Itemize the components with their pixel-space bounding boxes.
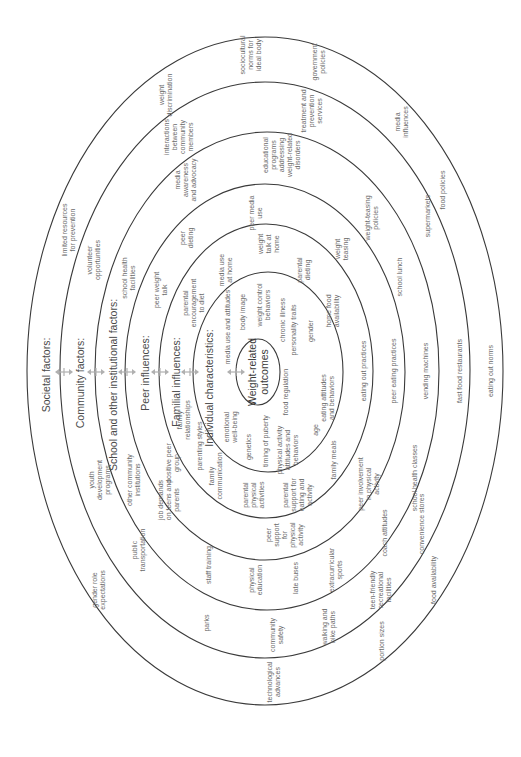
factor-label: limited resourcesfor prevention bbox=[61, 203, 77, 256]
factor-label-line: eating and bbox=[298, 479, 306, 512]
factor-label: eating attitudesand behaviors bbox=[320, 374, 335, 422]
factor-label-line: food availability bbox=[430, 556, 438, 604]
factor-label: peersupportforphysicalactivity bbox=[265, 522, 305, 548]
factor-label-line: technological bbox=[266, 661, 274, 702]
factor-label-line: public bbox=[131, 540, 139, 559]
factor-label-line: parental bbox=[282, 482, 290, 508]
factor-label-line: extracurricular bbox=[328, 547, 335, 592]
factor-label-line: activities bbox=[258, 481, 265, 508]
factor-label: genetics bbox=[245, 433, 253, 460]
factor-label-line: fast food restaurants bbox=[456, 339, 463, 403]
factor-label-line: age bbox=[312, 424, 320, 436]
factor-label: extracurricularsports bbox=[328, 547, 344, 592]
factor-label-line: education bbox=[256, 565, 263, 595]
factor-label: home foodavailability bbox=[325, 294, 341, 327]
factor-label: physicaleducation bbox=[248, 565, 263, 595]
factor-label-line: home bbox=[273, 235, 280, 253]
factor-label: food regulation bbox=[282, 369, 290, 415]
factor-label-line: genetics bbox=[245, 433, 253, 460]
factor-label-line: media use and attitudes bbox=[224, 289, 231, 364]
factor-label-line: weight-teasing bbox=[364, 195, 372, 241]
factor-label-line: chronic illness bbox=[279, 298, 286, 342]
factor-label: parentalphysicalactivities bbox=[242, 481, 265, 508]
factor-label-line: media bbox=[394, 112, 401, 131]
factor-label-line: home food bbox=[325, 294, 332, 327]
factor-label-line: educational bbox=[262, 137, 269, 173]
factor-label-line: addressing bbox=[278, 138, 286, 172]
factor-label-line: and behaviors bbox=[328, 376, 335, 420]
factor-label-line: services bbox=[316, 98, 323, 124]
factor-label-line: policies bbox=[372, 206, 380, 230]
factor-labels: socioculturalnorms forideal bodygovernme… bbox=[61, 35, 495, 702]
factor-label-line: support for bbox=[290, 478, 298, 512]
factor-label: emotionalwell-being bbox=[223, 411, 239, 444]
factor-label-line: personality traits bbox=[290, 304, 298, 355]
factor-label-line: support bbox=[273, 523, 281, 546]
factor-label-line: policies bbox=[319, 50, 327, 74]
level-title: Peer influences: bbox=[139, 335, 151, 410]
factor-label: family meals bbox=[330, 440, 338, 479]
factor-label-line: at home bbox=[226, 257, 233, 282]
factor-label-line: teasing bbox=[342, 238, 350, 261]
factor-label-line: other community bbox=[126, 454, 134, 506]
factor-label: educationalprogramsaddressingweight-rela… bbox=[262, 133, 301, 178]
factor-label-line: transportation bbox=[139, 528, 147, 571]
factor-label: familycommunication bbox=[208, 452, 223, 499]
factor-label-line: peer involvement bbox=[357, 457, 365, 510]
factor-label-line: talk at bbox=[265, 235, 272, 254]
factor-label-line: institutions bbox=[134, 463, 141, 497]
factor-label-line: physical bbox=[289, 522, 297, 548]
factor-label-line: in physical bbox=[365, 467, 373, 500]
factor-label-line: vending machines bbox=[422, 342, 430, 399]
level-title: Societal factors: bbox=[40, 338, 52, 413]
factor-label-line: attitudes and bbox=[284, 430, 291, 470]
factor-label-line: eating attitudes bbox=[320, 374, 328, 422]
factor-label-line: expectations bbox=[99, 570, 107, 610]
level-title: Individual characteristics: bbox=[203, 329, 215, 446]
factor-label-line: opportunities bbox=[94, 239, 102, 280]
factor-label: body image bbox=[239, 294, 247, 330]
factor-label-line: for bbox=[281, 530, 288, 539]
factor-label-line: parental bbox=[182, 290, 190, 316]
factor-label-line: parental bbox=[296, 257, 304, 283]
factor-label: weight controlbehaviors bbox=[256, 283, 271, 328]
ecological-model-diagram: Societal factors:Community factors:Schoo… bbox=[0, 0, 521, 757]
factor-label: food availability bbox=[430, 556, 438, 604]
factor-label: peer weighttalk bbox=[153, 272, 168, 308]
factor-label-line: body image bbox=[239, 294, 247, 330]
center-outcomes: Weight-relatedoutcomes bbox=[246, 338, 270, 406]
factor-label-line: media use bbox=[218, 254, 225, 286]
double-arrow-icon bbox=[151, 368, 169, 376]
factor-label-line: discrimination bbox=[166, 73, 173, 116]
level-title-line: Individual characteristics: bbox=[203, 329, 215, 446]
factor-label-line: supermarkets bbox=[424, 194, 432, 237]
factor-label-line: disorders bbox=[294, 140, 301, 169]
factor-label: food policies bbox=[439, 170, 447, 209]
factor-label: timing of puberty bbox=[262, 415, 270, 467]
factor-label-line: physical bbox=[250, 482, 258, 508]
factor-label-line: family bbox=[176, 410, 184, 429]
factor-label-line: and advocacy bbox=[190, 158, 198, 202]
factor-label: late buses bbox=[292, 562, 299, 594]
factor-label-line: parents bbox=[173, 488, 181, 512]
factor-label-line: talk bbox=[161, 284, 168, 295]
factor-label-line: eating out practices bbox=[360, 340, 368, 401]
factor-label-line: safety bbox=[277, 625, 285, 644]
factor-label-line: media bbox=[174, 170, 181, 189]
factor-label-line: between bbox=[171, 124, 178, 151]
factor-label-line: programs bbox=[104, 465, 112, 495]
factor-label-line: facilities bbox=[129, 265, 136, 290]
factor-label: vending machines bbox=[422, 342, 430, 399]
factor-label-line: bike paths bbox=[329, 611, 337, 643]
factor-label-line: emotional bbox=[223, 411, 230, 442]
factor-label-line: job demands bbox=[157, 479, 165, 521]
factor-label-line: use bbox=[256, 207, 263, 218]
factor-label: eating out practices bbox=[360, 340, 368, 401]
factor-label-line: members bbox=[187, 122, 194, 152]
factor-label-line: influences bbox=[402, 106, 409, 138]
level-title-line: Societal factors: bbox=[40, 338, 52, 413]
factor-label-line: treatment and bbox=[300, 89, 307, 132]
factor-label-line: sports bbox=[336, 560, 344, 580]
factor-label-line: dieting bbox=[304, 260, 312, 281]
factor-label: school health classes bbox=[411, 444, 418, 511]
